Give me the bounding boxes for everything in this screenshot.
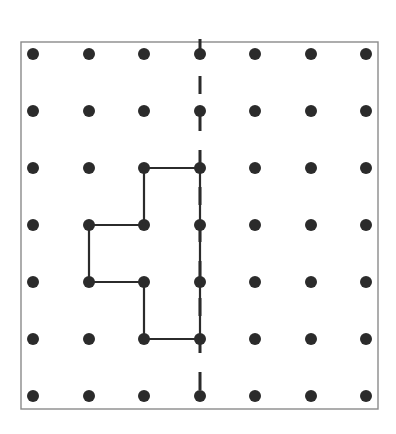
grid-dot: [27, 276, 39, 288]
grid-dot: [83, 105, 95, 117]
grid-dot: [249, 219, 261, 231]
grid-dot: [249, 333, 261, 345]
dot-grid-diagram: [0, 0, 396, 434]
grid-dot: [360, 276, 372, 288]
grid-dot: [27, 162, 39, 174]
grid-dot: [305, 276, 317, 288]
grid-dot: [360, 333, 372, 345]
grid-dot: [305, 333, 317, 345]
grid-dot: [360, 390, 372, 402]
grid-dot: [138, 390, 150, 402]
grid-dot: [305, 219, 317, 231]
grid-dot: [249, 162, 261, 174]
grid-dot: [305, 390, 317, 402]
grid-dot: [83, 390, 95, 402]
grid-dot: [249, 276, 261, 288]
grid-dot: [194, 390, 206, 402]
half-shape-outline: [89, 168, 200, 339]
grid-dot: [138, 48, 150, 60]
grid-dot: [249, 105, 261, 117]
grid-dot: [360, 48, 372, 60]
grid-dot: [360, 219, 372, 231]
grid-dot: [305, 105, 317, 117]
grid-dot: [27, 390, 39, 402]
grid-dot: [27, 333, 39, 345]
grid-dot: [27, 219, 39, 231]
grid-dot: [305, 48, 317, 60]
grid-dot: [249, 390, 261, 402]
grid-dot: [83, 333, 95, 345]
grid-dot: [305, 162, 317, 174]
grid-dot: [27, 48, 39, 60]
grid-dot: [360, 162, 372, 174]
grid-dot: [83, 162, 95, 174]
grid-dot: [360, 105, 372, 117]
grid-dot: [83, 48, 95, 60]
grid-dot: [249, 48, 261, 60]
grid-dot: [138, 105, 150, 117]
grid-dot: [27, 105, 39, 117]
